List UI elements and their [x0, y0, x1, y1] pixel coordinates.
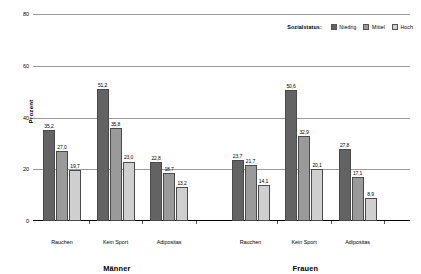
x-axis-tick: [142, 221, 143, 224]
group-label-frauen: Frauen: [292, 264, 318, 273]
bar-value-label: 14,1: [259, 178, 268, 184]
bar-value-label: 8,9: [367, 191, 374, 197]
bar-value-label: 20,1: [312, 162, 321, 168]
x-category-label: Adipositas: [345, 239, 370, 245]
x-category-label: Kein Sport: [291, 239, 316, 245]
bar-value-label: 35,8: [111, 121, 120, 127]
bar-value-label: 35,2: [44, 123, 53, 129]
group-label-maenner: Männer: [103, 264, 130, 273]
bar-value-label: 13,2: [177, 180, 186, 186]
bar-value-label: 23,0: [124, 154, 133, 160]
x-axis-tick: [277, 221, 278, 224]
bar-value-label: 50,6: [286, 83, 295, 89]
x-category-label: Rauchen: [51, 239, 73, 245]
bar: [69, 170, 81, 221]
y-tick-label-60: 60: [23, 63, 29, 69]
bar: [123, 162, 135, 222]
bar: [232, 160, 244, 221]
bar-value-label: 23,7: [233, 153, 242, 159]
gridline-80: [33, 14, 410, 15]
bar-value-label: 18,7: [164, 166, 173, 172]
bar-value-label: 32,9: [299, 129, 308, 135]
bar: [339, 149, 351, 221]
bar: [258, 185, 270, 221]
gridline-40: [33, 118, 410, 119]
x-category-label: Kein Sport: [103, 239, 128, 245]
bar: [285, 90, 297, 221]
bar: [352, 177, 364, 221]
bar: [311, 169, 323, 221]
bar: [150, 162, 162, 221]
bar: [43, 130, 55, 221]
y-tick-label-20: 20: [23, 166, 29, 172]
gridline-60: [33, 66, 410, 67]
y-tick-label-40: 40: [23, 115, 29, 121]
bar: [163, 173, 175, 221]
bar: [56, 151, 68, 221]
bar: [245, 165, 257, 221]
bar-value-label: 22,8: [151, 155, 160, 161]
x-axis-tick: [384, 221, 385, 224]
bar-value-label: 19,7: [70, 163, 79, 169]
x-axis-tick: [196, 221, 197, 224]
plot-area: 02040608035,227,019,7Rauchen51,235,823,0…: [33, 14, 410, 221]
bar-value-label: 27,0: [57, 144, 66, 150]
bar-value-label: 17,1: [353, 170, 362, 176]
x-category-label: Adipositas: [157, 239, 182, 245]
x-category-label: Rauchen: [240, 239, 262, 245]
bar: [298, 136, 310, 221]
bar: [97, 89, 109, 221]
bar-value-label: 51,2: [98, 82, 107, 88]
y-tick-label-0: 0: [26, 218, 29, 224]
bar: [365, 198, 377, 221]
bar-value-label: 27,8: [340, 142, 349, 148]
y-tick-label-80: 80: [23, 11, 29, 17]
x-axis-tick: [331, 221, 332, 224]
bar-chart: Sozialstatus: Niedrig Mittel Hoch Prozen…: [0, 0, 421, 274]
bar: [110, 128, 122, 221]
bar-value-label: 21,7: [246, 158, 255, 164]
bar: [176, 187, 188, 221]
x-axis-tick: [89, 221, 90, 224]
